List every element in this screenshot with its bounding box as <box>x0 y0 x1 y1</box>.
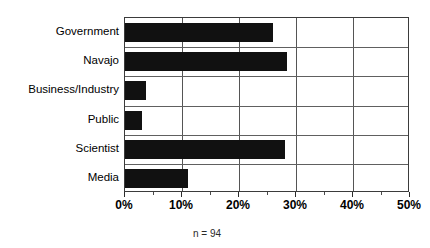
major-tick <box>295 192 296 197</box>
bar <box>125 140 285 159</box>
bar-row <box>125 106 410 135</box>
value-axis-tick-label: 10% <box>157 198 205 212</box>
value-axis-tick-label: 30% <box>271 198 319 212</box>
minor-tick <box>210 192 211 195</box>
minor-tick <box>324 192 325 195</box>
chart-title <box>150 0 290 3</box>
bar-row <box>125 76 410 105</box>
value-axis: 0%10%20%30%40%50% <box>124 192 410 222</box>
bar-row <box>125 135 410 164</box>
bar <box>125 81 146 100</box>
major-tick <box>124 192 125 197</box>
bar-row <box>125 164 410 193</box>
category-label: Scientist <box>0 134 119 163</box>
category-label: Business/Industry <box>0 75 119 104</box>
horizontal-bar-chart: GovernmentNavajoBusiness/IndustryPublicS… <box>0 0 430 248</box>
bar <box>125 52 287 71</box>
minor-tick <box>153 192 154 195</box>
value-axis-tick-label: 0% <box>100 198 148 212</box>
sample-size-text: n = 94 <box>193 228 221 239</box>
value-axis-tick-label: 40% <box>328 198 376 212</box>
major-tick <box>181 192 182 197</box>
category-label: Navajo <box>0 46 119 75</box>
sample-size-note: n = 94 <box>0 228 430 239</box>
bar-row <box>125 47 410 76</box>
category-axis-labels: GovernmentNavajoBusiness/IndustryPublicS… <box>0 17 119 192</box>
bar-row <box>125 18 410 47</box>
minor-tick <box>381 192 382 195</box>
plot-area <box>124 17 409 192</box>
category-label: Media <box>0 163 119 192</box>
category-label: Public <box>0 105 119 134</box>
value-axis-tick-label: 50% <box>385 198 430 212</box>
major-tick <box>352 192 353 197</box>
major-tick <box>409 192 410 197</box>
category-label: Government <box>0 17 119 46</box>
major-tick <box>238 192 239 197</box>
value-axis-tick-label: 20% <box>214 198 262 212</box>
bar <box>125 169 188 188</box>
bar <box>125 111 142 130</box>
minor-tick <box>267 192 268 195</box>
bar <box>125 23 273 42</box>
